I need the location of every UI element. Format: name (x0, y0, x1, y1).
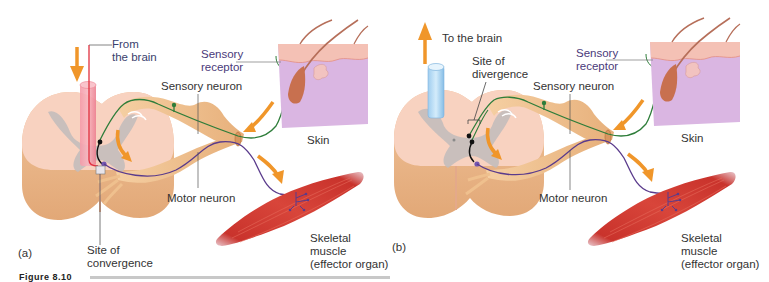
label-line: receptor (201, 61, 243, 74)
label-line: Skeletal (681, 232, 759, 245)
descending-arrow (70, 47, 84, 82)
caption-text-cutoff (90, 276, 390, 279)
label-line: (effector organ) (681, 258, 759, 271)
label-line: Site of (472, 55, 528, 68)
skeletal-muscle-label: Skeletal muscle (effector organ) (681, 232, 759, 271)
sensory-receptor-label: Sensory receptor (201, 48, 243, 74)
skin-block (606, 18, 740, 126)
panel-label-a: (a) (18, 247, 32, 260)
skin-label: Skin (681, 132, 703, 145)
motor-neuron-label: Motor neuron (539, 192, 607, 205)
from-brain-label: From the brain (112, 38, 157, 64)
panel-label-b: (b) (392, 241, 406, 254)
motor-neuron-label: Motor neuron (167, 192, 235, 205)
label-line: Site of (87, 244, 153, 257)
label-line: Sensory (201, 48, 243, 61)
label-line: muscle (681, 245, 759, 258)
label-line: Sensory (576, 47, 618, 60)
skin-label: Skin (307, 134, 329, 147)
label-line: divergence (472, 68, 528, 81)
skeletal-muscle-label: Skeletal muscle (effector organ) (310, 232, 388, 271)
sensory-neuron-label: Sensory neuron (533, 80, 614, 93)
label-line: Skeletal (310, 232, 388, 245)
figure-caption: Figure 8.10 (19, 272, 72, 282)
ascending-tract (428, 64, 444, 119)
sensory-neuron-label: Sensory neuron (161, 80, 242, 93)
to-brain-label: To the brain (442, 32, 502, 45)
panel-divergence: To the brain Site of divergence Sensory … (384, 0, 768, 281)
site-of-convergence-label: Site of convergence (87, 244, 153, 270)
label-line: From (112, 38, 157, 51)
label-line: muscle (310, 245, 388, 258)
label-line: (effector organ) (310, 258, 388, 271)
label-line: the brain (112, 51, 157, 64)
sensory-receptor-label: Sensory receptor (576, 47, 618, 73)
ascending-arrow (418, 22, 432, 64)
site-of-divergence-label: Site of divergence (472, 55, 528, 81)
panel-convergence: From the brain Sensory receptor Sensory … (0, 0, 384, 281)
label-line: convergence (87, 257, 153, 270)
label-line: receptor (576, 60, 618, 73)
skin-block (236, 20, 368, 128)
